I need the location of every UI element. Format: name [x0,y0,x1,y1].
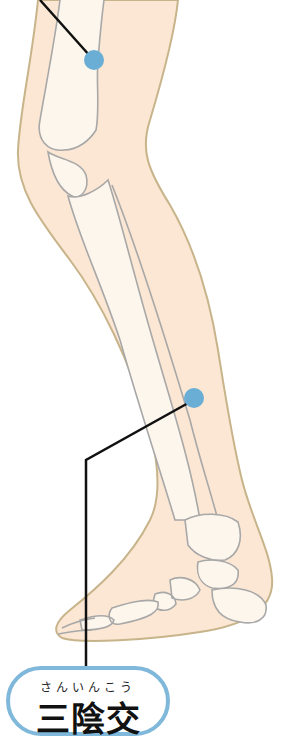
label-kanji: 三陰交 [10,692,166,740]
upper-acupoint-marker [84,50,104,70]
sanyinjiao-acupoint-marker [184,388,204,408]
acupoint-label: さんいんこう 三陰交 [6,666,170,736]
